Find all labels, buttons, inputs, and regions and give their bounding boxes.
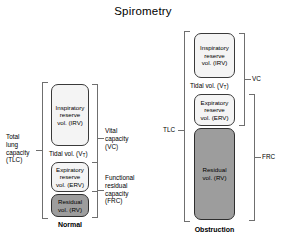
normal-erv-line-3: vol. (ERV) bbox=[56, 181, 84, 189]
normal-caption: Normal bbox=[51, 221, 89, 228]
normal-rv-line-2: vol. (RV) bbox=[58, 206, 82, 214]
normal-erv-line-1: Expiratory bbox=[56, 166, 84, 174]
obstruction-tlc-label: TLC bbox=[163, 126, 175, 134]
obstruction-irv-line-1: Inspiratory bbox=[200, 44, 229, 52]
normal-erv-line-2: reserve bbox=[60, 173, 81, 181]
obstruction-erv-line-3: vol. (ERV) bbox=[200, 114, 228, 122]
obstruction-rv-box: Residual vol. (RV) bbox=[194, 128, 235, 220]
normal-irv-line-3: vol. (IRV) bbox=[57, 119, 83, 127]
obstruction-vc-label: VC bbox=[252, 75, 261, 83]
figure-title: Spirometry bbox=[0, 5, 286, 17]
obstruction-erv-line-1: Expiratory bbox=[201, 99, 229, 107]
obstruction-frc-bracket-nub bbox=[255, 157, 261, 158]
normal-frc-bracket-nub bbox=[98, 190, 104, 191]
normal-tidal-volume-label: Tidal vol. (VT) bbox=[49, 150, 88, 159]
normal-rv-box: Residual vol. (RV) bbox=[51, 194, 89, 217]
spirometry-figure: Spirometry Total lung capacity (TLC) Ins… bbox=[0, 0, 286, 245]
obstruction-tidal-volume-label: Tidal vol. (VT) bbox=[190, 82, 229, 91]
normal-vc-label: Vital capacity (VC) bbox=[105, 127, 145, 150]
obstruction-erv-box: Expiratory reserve vol. (ERV) bbox=[194, 94, 235, 126]
normal-rv-line-1: Residual bbox=[58, 198, 82, 206]
normal-tlc-bracket bbox=[42, 82, 48, 219]
obstruction-caption: Obstruction bbox=[184, 226, 245, 233]
obstruction-erv-line-2: reserve bbox=[204, 106, 225, 114]
normal-irv-line-2: reserve bbox=[60, 111, 81, 119]
obstruction-tlc-bracket-nub bbox=[178, 130, 184, 131]
normal-frc-label: Functional residual capacity (FRC) bbox=[105, 174, 151, 205]
obstruction-irv-line-3: vol. (IRV) bbox=[202, 59, 228, 67]
normal-tlc-label: Total lung capacity (TLC) bbox=[6, 133, 38, 164]
normal-irv-line-1: Inspiratory bbox=[56, 104, 85, 112]
normal-erv-box: Expiratory reserve vol. (ERV) bbox=[51, 162, 89, 192]
normal-irv-box: Inspiratory reserve vol. (IRV) bbox=[51, 84, 89, 146]
obstruction-vc-bracket-nub bbox=[245, 79, 251, 80]
obstruction-frc-label: FRC bbox=[262, 153, 275, 161]
obstruction-rv-line-1: Residual bbox=[202, 166, 226, 174]
obstruction-irv-line-2: reserve bbox=[204, 52, 225, 60]
obstruction-tlc-bracket bbox=[184, 31, 190, 222]
obstruction-rv-line-2: vol. (RV) bbox=[203, 174, 227, 182]
obstruction-irv-box: Inspiratory reserve vol. (IRV) bbox=[194, 33, 235, 78]
normal-vc-bracket-nub bbox=[98, 138, 104, 139]
